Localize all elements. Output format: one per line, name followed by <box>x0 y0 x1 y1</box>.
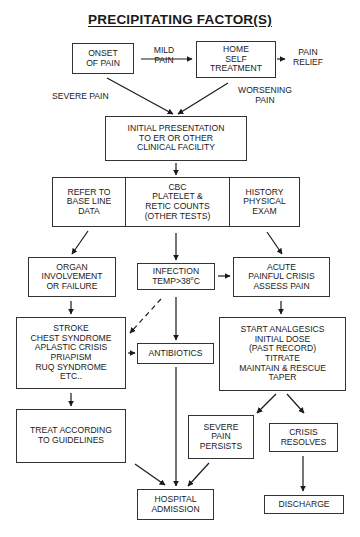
arrow-onset-to-initial <box>107 78 173 114</box>
arrow-infection-to-stroke <box>130 299 161 333</box>
arrow-history-to-acute <box>267 232 282 254</box>
arrow-start-to-crisis <box>287 394 304 413</box>
arrow-home-to-initial <box>178 83 228 114</box>
arrow-severe-to-hospital <box>188 463 209 486</box>
arrow-start-to-severe <box>257 394 276 413</box>
connector-arrows <box>0 0 360 537</box>
arrow-refer-to-organ <box>72 231 88 254</box>
arrow-treat-to-hospital <box>135 464 165 485</box>
